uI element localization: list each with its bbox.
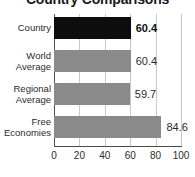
bar-category-label-line: Country xyxy=(0,23,51,34)
bar-category-label-line: Regional xyxy=(0,84,51,95)
bar-category-label-line: Average xyxy=(0,61,51,72)
chart-title: Country Comparisons xyxy=(0,0,195,7)
x-tick-label-20: 20 xyxy=(74,150,85,161)
bar-category-label-line: Average xyxy=(0,94,51,105)
bar-row: FreeEconomies84.6 xyxy=(0,113,195,141)
bar[interactable] xyxy=(54,50,131,72)
bar[interactable] xyxy=(54,83,130,105)
bar-category-label: RegionalAverage xyxy=(0,84,51,105)
bar-value-label: 59.7 xyxy=(135,88,156,100)
bar[interactable] xyxy=(54,116,161,138)
bar-category-label-line: Economies xyxy=(0,127,51,138)
x-tick-label-80: 80 xyxy=(150,150,161,161)
x-tick-label-40: 40 xyxy=(99,150,110,161)
x-tick-label-60: 60 xyxy=(125,150,136,161)
bar-rows: Country60.4WorldAverage60.4RegionalAvera… xyxy=(0,14,195,146)
bar-row: Country60.4 xyxy=(0,14,195,42)
x-tick-label-100: 100 xyxy=(173,150,190,161)
bar-category-label: FreeEconomies xyxy=(0,117,51,138)
bar-value-label: 60.4 xyxy=(136,22,157,34)
x-axis-line xyxy=(54,146,182,147)
bar-category-label: WorldAverage xyxy=(0,51,51,72)
bar-category-label: Country xyxy=(0,23,51,34)
bar-category-label-line: World xyxy=(0,51,51,62)
x-tick-label-0: 0 xyxy=(51,150,57,161)
bar[interactable] xyxy=(54,17,131,39)
bar-value-label: 60.4 xyxy=(136,55,157,67)
bar-row: RegionalAverage59.7 xyxy=(0,80,195,108)
bar-category-label-line: Free xyxy=(0,117,51,128)
bar-row: WorldAverage60.4 xyxy=(0,47,195,75)
x-axis-ticks: 020406080100 xyxy=(54,150,181,168)
bar-value-label: 84.6 xyxy=(166,121,187,133)
country-comparisons-chart: Country Comparisons Country60.4WorldAver… xyxy=(0,0,195,177)
